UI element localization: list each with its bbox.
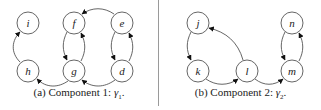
edge-m-n — [299, 33, 303, 61]
caption-b-suffix: . — [284, 86, 287, 98]
node-k: k — [187, 60, 209, 82]
svg-text:n: n — [289, 17, 295, 29]
edge-g-f — [81, 33, 85, 61]
edge-n-m — [281, 32, 285, 60]
panel-a-nodes: i h f g e d — [17, 12, 133, 82]
panel-b-nodes: j k l n m — [187, 12, 303, 82]
svg-text:l: l — [245, 65, 248, 77]
panel-divider — [158, 0, 159, 106]
caption-a-prefix: (a) Component 1: — [34, 86, 114, 98]
caption-a: (a) Component 1: γ1. — [0, 86, 158, 101]
edge-j-k — [187, 32, 191, 60]
edge-g-h — [37, 79, 68, 86]
caption-b-prefix: (b) Component 2: — [195, 86, 276, 98]
svg-text:e: e — [120, 17, 125, 29]
edge-e-d — [111, 32, 115, 60]
node-i: i — [17, 12, 39, 34]
node-j: j — [187, 12, 209, 34]
node-l: l — [236, 60, 258, 82]
node-m: m — [281, 60, 303, 82]
edge-d-e — [129, 33, 133, 61]
edge-l-j — [209, 28, 243, 60]
edge-f-g — [63, 32, 67, 60]
node-h: h — [17, 60, 39, 82]
svg-text:h: h — [25, 65, 31, 77]
svg-text:i: i — [26, 17, 29, 29]
edge-k-l — [206, 79, 238, 84]
svg-text:m: m — [288, 65, 296, 77]
edge-h-i — [13, 32, 20, 62]
node-d: d — [111, 60, 133, 82]
caption-b: (b) Component 2: γ2. — [160, 86, 321, 101]
svg-text:d: d — [119, 65, 125, 77]
edge-e-f — [82, 9, 114, 14]
svg-text:g: g — [71, 65, 77, 77]
caption-a-suffix: . — [122, 86, 125, 98]
node-f: f — [63, 12, 85, 34]
edge-l-m — [255, 79, 283, 84]
node-g: g — [63, 60, 85, 82]
node-n: n — [281, 12, 303, 34]
node-e: e — [111, 12, 133, 34]
